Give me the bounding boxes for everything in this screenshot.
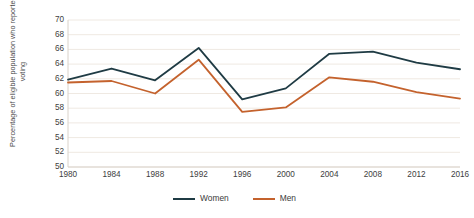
- x-axis-tick-label: 1996: [220, 170, 264, 180]
- legend-label: Women: [200, 194, 229, 203]
- y-axis-tick-label: 66: [40, 45, 64, 53]
- legend-item-women[interactable]: Women: [173, 194, 229, 203]
- x-axis-tick-label: 1980: [46, 170, 90, 180]
- legend-swatch-icon: [173, 198, 195, 200]
- x-axis-tick-label: 1984: [90, 170, 134, 180]
- x-axis-tick-label: 2000: [264, 170, 308, 180]
- series-line-women: [68, 48, 460, 99]
- y-axis-title: Percentage of eligible population who re…: [8, 0, 27, 152]
- x-axis-tick-label: 1992: [177, 170, 221, 180]
- plot-area: [68, 20, 460, 167]
- y-axis-tick-label: 60: [40, 90, 64, 98]
- legend-label: Men: [280, 194, 296, 203]
- y-axis-tick-labels: 7068666462605856545250: [40, 0, 64, 218]
- series-line-men: [68, 60, 460, 112]
- series-lines: [68, 48, 460, 112]
- y-axis-tick-label: 70: [40, 16, 64, 24]
- x-axis-tick-label: 2012: [394, 170, 438, 180]
- x-axis-tick-label: 2008: [351, 170, 395, 180]
- legend-swatch-icon: [253, 198, 275, 200]
- y-axis-tick-label: 64: [40, 60, 64, 68]
- plot-svg: [68, 20, 460, 167]
- y-axis-tick-label: 68: [40, 31, 64, 39]
- y-axis-tick-label: 62: [40, 75, 64, 83]
- y-axis-tick-label: 58: [40, 104, 64, 112]
- x-axis-tick-label: 2016: [438, 170, 474, 180]
- chart-legend: WomenMen: [0, 194, 469, 203]
- y-axis-tick-label: 52: [40, 148, 64, 156]
- x-axis-tick-label: 2004: [307, 170, 351, 180]
- legend-item-men[interactable]: Men: [253, 194, 296, 203]
- y-axis-tick-label: 54: [40, 134, 64, 142]
- x-axis-tick-label: 1988: [133, 170, 177, 180]
- y-axis-tick-label: 56: [40, 119, 64, 127]
- x-axis-tick-labels: 1980198419881992199620002004200820122016: [68, 170, 460, 184]
